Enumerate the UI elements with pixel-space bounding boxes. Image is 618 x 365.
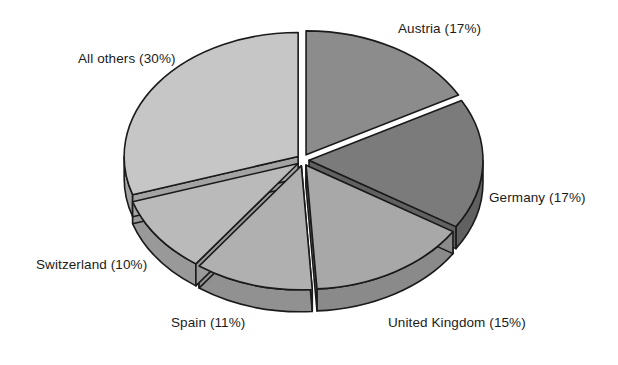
pie-top-faces — [124, 31, 483, 290]
slice-label-austria: Austria (17%) — [398, 22, 481, 36]
slice-label-switzerland: Switzerland (10%) — [36, 258, 147, 272]
slice-label-all-others: All others (30%) — [78, 52, 176, 66]
slice-label-germany: Germany (17%) — [489, 191, 586, 205]
pie-chart: Austria (17%) Germany (17%) United Kingd… — [0, 0, 618, 365]
slice-label-united-kingdom: United Kingdom (15%) — [388, 316, 526, 330]
slice-label-spain: Spain (11%) — [171, 316, 245, 330]
